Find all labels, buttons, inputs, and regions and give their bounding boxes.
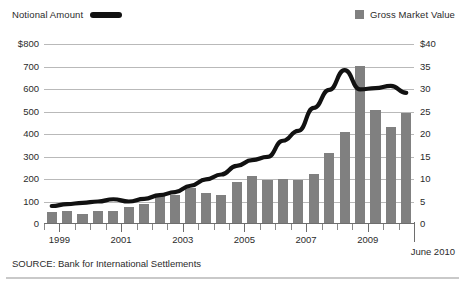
x-axis-major-tick — [121, 224, 122, 232]
legend-label-notional-amount: Notional Amount — [12, 9, 83, 20]
x-axis-minor-tick — [152, 224, 153, 230]
y-axis-right-tick-label: 35 — [420, 62, 431, 72]
y-axis-right-tick-label: 20 — [420, 129, 431, 139]
y-axis-right-tick-label: 10 — [420, 174, 431, 184]
y-axis-left-tick-label: 400 — [23, 129, 39, 139]
legend-item-gross-market-value: Gross Market Value — [355, 9, 455, 20]
y-axis-right-tick-label: 5 — [420, 197, 425, 207]
x-axis-minor-tick — [275, 224, 276, 230]
y-axis-left-tick-label: 700 — [23, 62, 39, 72]
chart-legend: Notional Amount Gross Market Value — [0, 9, 465, 25]
x-axis-major-tick — [244, 224, 245, 232]
x-axis-tick-label: 2003 — [172, 234, 193, 245]
x-axis-minor-tick — [399, 224, 400, 230]
x-axis-minor-tick — [291, 224, 292, 230]
notional-amount-line-path — [52, 70, 407, 206]
x-axis-minor-tick — [198, 224, 199, 230]
x-axis-tick-label: 1999 — [49, 234, 70, 245]
legend-line-swatch-icon — [90, 12, 122, 18]
y-axis-left-tick-label: 0 — [34, 219, 39, 229]
x-axis-major-tick — [183, 224, 184, 232]
y-axis-left-tick-label: 600 — [23, 84, 39, 94]
line-series-notional-amount — [44, 44, 414, 224]
y-axis-left-tick-label: 500 — [23, 107, 39, 117]
y-axis-right-tick-label: $40 — [420, 39, 436, 49]
x-axis-minor-tick — [383, 224, 384, 230]
legend-bar-swatch-icon — [355, 10, 364, 19]
x-axis-minor-tick — [44, 224, 45, 230]
y-axis-right-tick-label: 15 — [420, 152, 431, 162]
x-axis-tick-label: 2007 — [296, 234, 317, 245]
x-axis-ticks — [44, 224, 414, 232]
x-axis-minor-tick — [214, 224, 215, 230]
x-axis-tick-label: 2001 — [111, 234, 132, 245]
plot-area: $8007006005004003002001000 $403530252015… — [44, 44, 414, 224]
x-axis-minor-tick — [260, 224, 261, 230]
x-axis-minor-tick — [106, 224, 107, 230]
x-axis-labels: 199920012003200520072009 — [0, 234, 465, 248]
y-axis-right-tick-label: 0 — [420, 219, 425, 229]
x-axis-minor-tick — [75, 224, 76, 230]
x-axis-minor-tick — [352, 224, 353, 230]
x-axis-minor-tick — [90, 224, 91, 230]
y-axis-left-tick-label: 100 — [23, 197, 39, 207]
y-axis-left-tick-label: 300 — [23, 152, 39, 162]
chart-figure: Notional Amount Gross Market Value $8007… — [0, 0, 465, 285]
x-axis-end-label: June 2010 — [411, 246, 455, 257]
x-axis-major-tick — [59, 224, 60, 232]
legend-item-notional-amount: Notional Amount — [12, 9, 122, 20]
x-axis-tick-label: 2005 — [234, 234, 255, 245]
footer-divider — [6, 277, 459, 279]
x-axis-minor-tick — [229, 224, 230, 230]
x-axis-end-tick — [414, 222, 415, 242]
x-axis-tick-label: 2009 — [357, 234, 378, 245]
source-note: SOURCE: Bank for International Settlemen… — [12, 258, 201, 269]
x-axis-major-tick — [368, 224, 369, 232]
x-axis-minor-tick — [322, 224, 323, 230]
x-axis-minor-tick — [167, 224, 168, 230]
y-axis-left-tick-label: $800 — [18, 39, 39, 49]
x-axis-minor-tick — [337, 224, 338, 230]
y-axis-right-tick-label: 25 — [420, 107, 431, 117]
x-axis-major-tick — [306, 224, 307, 232]
y-axis-left-tick-label: 200 — [23, 174, 39, 184]
legend-label-gross-market-value: Gross Market Value — [370, 9, 455, 20]
y-axis-right-tick-label: 30 — [420, 84, 431, 94]
x-axis-minor-tick — [137, 224, 138, 230]
